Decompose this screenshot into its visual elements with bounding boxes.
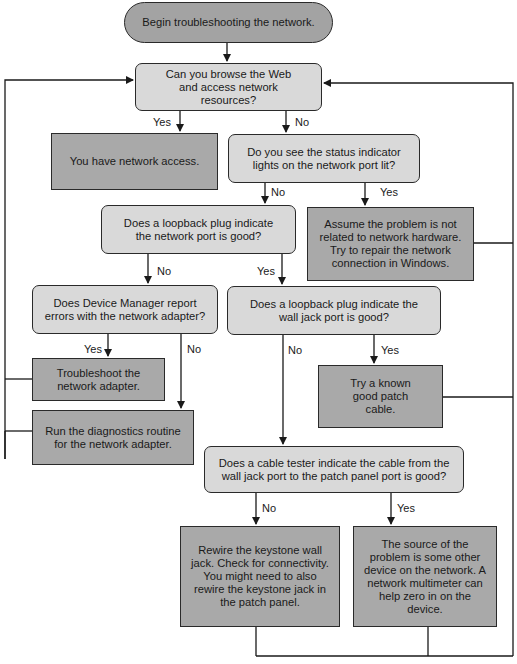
action-have-network-access-text: You have network access.: [70, 155, 200, 168]
edge-label-cable-tester-no: No: [262, 502, 276, 514]
decision-device-manager-errors: Does Device Manager report errors with t…: [32, 285, 218, 334]
decision-status-lights-text: Do you see the status indicator lights o…: [247, 146, 401, 172]
action-try-patch-cable: Try a known good patch cable.: [318, 365, 443, 428]
edge-label-status-no: No: [271, 186, 285, 198]
decision-loopback-network-port-text: Does a loopback plug indicate the networ…: [118, 217, 279, 243]
decision-browse-web-text: Can you browse the Web and access networ…: [156, 68, 301, 107]
decision-browse-web: Can you browse the Web and access networ…: [135, 63, 322, 111]
edge-label-status-yes: Yes: [380, 186, 398, 198]
action-run-diagnostics-text: Run the diagnostics routine for the netw…: [41, 425, 185, 451]
action-run-diagnostics: Run the diagnostics routine for the netw…: [32, 410, 194, 465]
edge-label-loopback-wall-yes: Yes: [381, 344, 399, 356]
decision-cable-tester-text: Does a cable tester indicate the cable f…: [215, 457, 453, 483]
edge-label-device-manager-yes: Yes: [84, 343, 102, 355]
start-terminal: Begin troubleshooting the network.: [124, 2, 333, 43]
decision-status-lights: Do you see the status indicator lights o…: [228, 134, 420, 183]
edge-label-cable-tester-yes: Yes: [397, 502, 415, 514]
decision-loopback-network-port: Does a loopback plug indicate the networ…: [101, 205, 296, 254]
start-text: Begin troubleshooting the network.: [142, 16, 314, 29]
decision-cable-tester: Does a cable tester indicate the cable f…: [204, 446, 464, 493]
decision-loopback-wall-jack: Does a loopback plug indicate the wall j…: [227, 286, 441, 335]
edge-label-browse-yes: Yes: [153, 116, 171, 128]
edge-label-loopback-wall-no: No: [288, 344, 302, 356]
action-repair-windows-connection: Assume the problem is not related to net…: [307, 207, 474, 281]
action-rewire-keystone-jack-text: Rewire the keystone wall jack. Check for…: [189, 544, 331, 609]
action-troubleshoot-adapter: Troubleshoot the network adapter.: [32, 358, 165, 401]
action-have-network-access: You have network access.: [51, 133, 218, 190]
edge-label-loopback-port-yes: Yes: [257, 265, 275, 277]
flowchart-canvas: Begin troubleshooting the network. Can y…: [0, 0, 517, 664]
action-try-patch-cable-text: Try a known good patch cable.: [337, 377, 424, 416]
action-other-device-source: The source of the problem is some other …: [353, 526, 497, 627]
decision-loopback-wall-jack-text: Does a loopback plug indicate the wall j…: [246, 298, 422, 324]
action-repair-windows-connection-text: Assume the problem is not related to net…: [316, 218, 465, 270]
edge-label-device-manager-no: No: [187, 343, 201, 355]
edge-label-loopback-port-no: No: [157, 265, 171, 277]
action-other-device-source-text: The source of the problem is some other …: [364, 538, 486, 616]
action-rewire-keystone-jack: Rewire the keystone wall jack. Check for…: [180, 526, 340, 627]
decision-device-manager-errors-text: Does Device Manager report errors with t…: [43, 297, 207, 323]
action-troubleshoot-adapter-text: Troubleshoot the network adapter.: [55, 367, 142, 393]
edge-label-browse-no: No: [295, 116, 309, 128]
